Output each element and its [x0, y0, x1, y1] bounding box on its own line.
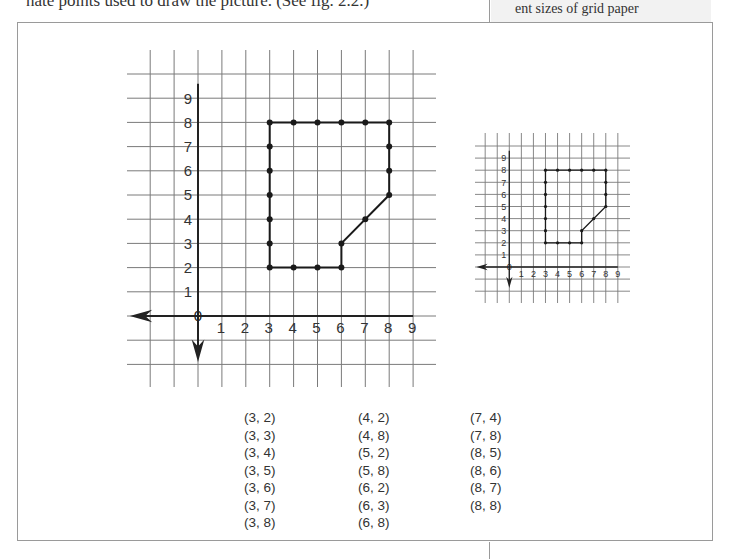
- plotted-point: [544, 169, 547, 172]
- y-tick-label: 9: [184, 90, 192, 107]
- coordinate-item: (3, 4): [244, 444, 276, 462]
- plotted-point: [267, 119, 273, 125]
- plotted-point: [267, 192, 273, 198]
- small-coordinate-grid: 0123456789123456789: [475, 133, 630, 303]
- y-tick-label: 6: [184, 162, 192, 179]
- y-tick-label: 5: [501, 202, 506, 212]
- y-tick-label: 9: [501, 153, 506, 163]
- x-tick-label: 4: [555, 269, 560, 279]
- coordinate-item: (6, 2): [358, 479, 390, 497]
- plotted-point: [544, 217, 547, 220]
- plotted-point: [580, 229, 583, 232]
- coordinate-item: (3, 5): [244, 462, 276, 480]
- coordinate-item: (7, 8): [470, 427, 502, 445]
- coordinate-item: (8, 6): [470, 462, 502, 480]
- plotted-point: [315, 119, 321, 125]
- plotted-point: [386, 168, 392, 174]
- x-tick-label: 6: [336, 319, 344, 336]
- x-tick-label: 7: [591, 269, 596, 279]
- plotted-point: [544, 205, 547, 208]
- large-coordinate-grid: 0123456789123456789: [127, 50, 436, 387]
- plotted-point: [580, 241, 583, 244]
- coordinate-list-column-2: (4, 2) (4, 8) (5, 2) (5, 8) (6, 2) (6, 3…: [358, 409, 390, 532]
- plotted-point: [568, 169, 571, 172]
- x-tick-label: 5: [312, 319, 320, 336]
- coordinate-item: (4, 8): [358, 427, 390, 445]
- y-tick-label: 8: [501, 165, 506, 175]
- plotted-point: [544, 229, 547, 232]
- coordinate-item: (8, 5): [470, 444, 502, 462]
- origin-label: 0: [194, 307, 202, 324]
- y-tick-label: 2: [184, 259, 192, 276]
- coordinate-item: (3, 8): [244, 514, 276, 532]
- coordinate-list-column-1: (3, 2) (3, 3) (3, 4) (3, 5) (3, 6) (3, 7…: [244, 409, 276, 532]
- plotted-point: [386, 144, 392, 150]
- x-tick-label: 1: [519, 269, 524, 279]
- plotted-point: [592, 169, 595, 172]
- plotted-point: [568, 241, 571, 244]
- plotted-point: [267, 144, 273, 150]
- y-tick-label: 2: [501, 238, 506, 248]
- coordinate-item: (3, 6): [244, 479, 276, 497]
- x-tick-label: 2: [531, 269, 536, 279]
- x-tick-label: 4: [288, 319, 296, 336]
- plotted-point: [267, 216, 273, 222]
- plotted-point: [544, 193, 547, 196]
- coordinate-item: (3, 7): [244, 497, 276, 515]
- plotted-point: [315, 265, 321, 271]
- x-tick-label: 2: [241, 319, 249, 336]
- coordinate-item: (3, 3): [244, 427, 276, 445]
- plotted-point: [604, 205, 607, 208]
- plotted-point: [267, 265, 273, 271]
- y-tick-label: 5: [184, 186, 192, 203]
- coordinate-item: (5, 8): [358, 462, 390, 480]
- y-tick-label: 6: [501, 190, 506, 200]
- x-tick-label: 7: [360, 319, 368, 336]
- x-tick-label: 9: [615, 269, 620, 279]
- y-tick-label: 7: [501, 178, 506, 188]
- x-tick-label: 6: [579, 269, 584, 279]
- x-tick-label: 8: [603, 269, 608, 279]
- coordinate-item: (5, 2): [358, 444, 390, 462]
- coordinate-item: (8, 8): [470, 497, 502, 515]
- plotted-point: [580, 169, 583, 172]
- x-tick-label: 3: [543, 269, 548, 279]
- y-tick-label: 7: [184, 138, 192, 155]
- y-tick-label: 3: [501, 226, 506, 236]
- y-tick-label: 1: [501, 250, 506, 260]
- plotted-point: [362, 216, 368, 222]
- x-tick-label: 5: [567, 269, 572, 279]
- plotted-point: [338, 119, 344, 125]
- y-tick-label: 4: [501, 214, 506, 224]
- coordinate-list-column-3: (7, 4) (7, 8) (8, 5) (8, 6) (8, 7) (8, 8…: [470, 409, 502, 514]
- plotted-point: [291, 265, 297, 271]
- coordinate-item: (6, 3): [358, 497, 390, 515]
- x-tick-label: 1: [217, 319, 225, 336]
- origin-label: 0: [507, 262, 512, 272]
- plotted-point: [291, 119, 297, 125]
- plotted-point: [267, 240, 273, 246]
- coordinate-item: (4, 2): [358, 409, 390, 427]
- plotted-point: [362, 119, 368, 125]
- coordinate-item: (3, 2): [244, 409, 276, 427]
- plotted-point: [544, 181, 547, 184]
- plotted-point: [592, 217, 595, 220]
- plotted-point: [604, 169, 607, 172]
- plotted-point: [556, 241, 559, 244]
- y-tick-label: 8: [184, 114, 192, 131]
- x-tick-label: 8: [384, 319, 392, 336]
- x-tick-label: 3: [265, 319, 273, 336]
- plotted-point: [338, 265, 344, 271]
- plotted-point: [556, 169, 559, 172]
- plotted-point: [338, 240, 344, 246]
- y-tick-label: 1: [184, 283, 192, 300]
- y-tick-label: 3: [184, 235, 192, 252]
- x-tick-label: 9: [408, 319, 416, 336]
- plotted-point: [604, 181, 607, 184]
- coordinate-item: (8, 7): [470, 479, 502, 497]
- plotted-point: [544, 241, 547, 244]
- plotted-point: [604, 193, 607, 196]
- plotted-point: [386, 119, 392, 125]
- plotted-point: [386, 192, 392, 198]
- plotted-point: [267, 168, 273, 174]
